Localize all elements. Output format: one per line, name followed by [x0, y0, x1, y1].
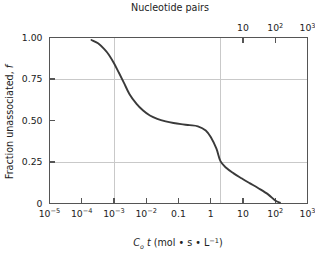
top-tick-label-1: 102 [267, 22, 283, 33]
bottom-tick-label-3: 10−2 [135, 207, 157, 218]
y-tick-label-0: 1.00 [22, 32, 43, 43]
bottom-tick-label-2: 10−3 [103, 207, 125, 218]
renaturation-curve [91, 40, 280, 203]
bottom-tick-label-8: 103 [299, 207, 315, 218]
y-tick-label-4: 0 [37, 198, 43, 209]
bottom-tick-label-5: 1 [208, 208, 214, 219]
gridlines [50, 38, 308, 204]
bottom-tick-label-6: 10 [237, 208, 249, 219]
top-axis-ticks [243, 38, 315, 44]
y-axis-tick-labels: 1.000.750.500.250 [22, 32, 43, 209]
chart-canvas: Nucleotide pairs 10102103104105106107108… [0, 0, 315, 256]
bottom-tick-label-4: 0.1 [171, 208, 186, 219]
data-curve [91, 40, 280, 203]
bottom-axis-ticks [50, 198, 308, 204]
bottom-tick-label-7: 102 [267, 207, 283, 218]
top-axis-title: Nucleotide pairs [131, 2, 209, 13]
y-axis-title: Fraction unassociated, f [4, 63, 15, 179]
y-tick-label-1: 0.75 [22, 73, 43, 84]
y-tick-label-2: 0.50 [22, 115, 43, 126]
cot-curve-figure: Nucleotide pairs 10102103104105106107108… [0, 0, 315, 256]
bottom-axis-title: Co t (mol • s • L−1) [133, 237, 222, 251]
y-axis-ticks [50, 79, 56, 162]
top-tick-label-2: 103 [299, 22, 315, 33]
plot-frame [50, 38, 308, 204]
bottom-tick-label-1: 10−4 [71, 207, 93, 218]
y-tick-label-3: 0.25 [22, 156, 43, 167]
bottom-axis-tick-labels: 10−510−410−310−20.1110102103 [39, 207, 315, 218]
top-tick-label-0: 10 [237, 22, 249, 33]
top-axis-tick-labels: 10102103104105106107108 [237, 22, 315, 33]
plot-border [50, 38, 308, 204]
